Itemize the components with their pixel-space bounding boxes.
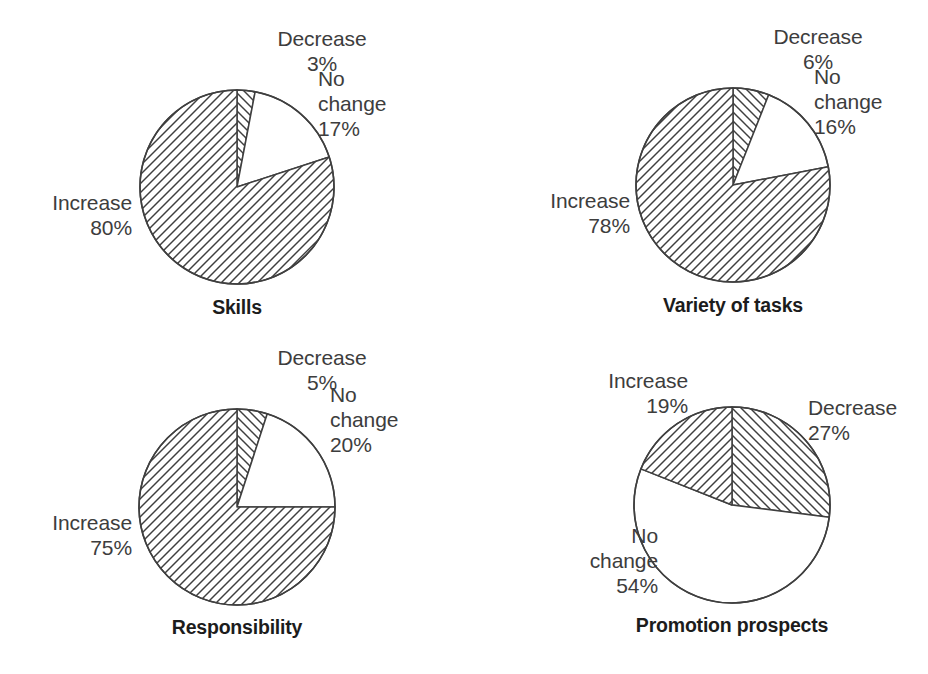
pie-label-promotion-prospects-2: No change 54% xyxy=(528,523,658,598)
pie-label-promotion-prospects-0: Increase 19% xyxy=(548,368,688,418)
pie-chart-promotion-prospects: Decrease 27%No change 54%Increase 19% xyxy=(0,0,928,674)
pie-chart-figure: Decrease 3%No change 17%Increase 80%Decr… xyxy=(0,0,928,674)
pie-caption-responsibility: Responsibility xyxy=(37,616,437,639)
pie-caption-promotion-prospects: Promotion prospects xyxy=(532,614,928,637)
pie-caption-variety-of-tasks: Variety of tasks xyxy=(533,294,928,317)
pie-caption-skills: Skills xyxy=(37,296,437,319)
pie-label-promotion-prospects-1: Decrease 27% xyxy=(808,395,928,445)
